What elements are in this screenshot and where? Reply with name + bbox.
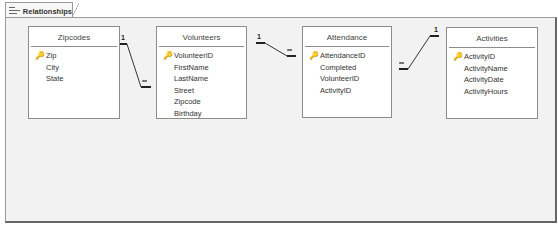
key-icon: 🔑: [453, 52, 463, 61]
key-icon: 🔑: [163, 51, 173, 60]
table-attendance[interactable]: Attendance 🔑AttendanceID Completed Volun…: [302, 26, 392, 118]
key-icon: 🔑: [35, 51, 45, 60]
many-label: ∞: [399, 59, 404, 66]
field-activityid[interactable]: ActivityID: [303, 85, 391, 97]
field-street[interactable]: Street: [157, 85, 246, 97]
field-zipcode[interactable]: Zipcode: [157, 96, 246, 108]
table-title: Activities: [449, 30, 535, 48]
document-tab-strip: Relationships: [0, 0, 558, 18]
field-attendanceid[interactable]: 🔑AttendanceID: [303, 50, 391, 62]
table-volunteers[interactable]: Volunteers 🔑VolunteerID FirstName LastNa…: [156, 26, 247, 119]
one-label: 1: [434, 26, 438, 33]
relationship-activities-attendance: [399, 36, 439, 69]
field-city[interactable]: City: [29, 62, 119, 74]
field-activitydate[interactable]: ActivityDate: [447, 74, 537, 86]
field-birthday[interactable]: Birthday: [157, 108, 246, 120]
many-label: ∞: [142, 77, 147, 84]
relationships-canvas[interactable]: 1 ∞ 1 ∞ 1 ∞ Zipcodes 🔑Zip City State Vol…: [5, 17, 557, 223]
key-icon: 🔑: [309, 51, 319, 60]
field-firstname[interactable]: FirstName: [157, 62, 246, 74]
field-volunteerid[interactable]: VolunteerID: [303, 73, 391, 85]
field-activityname[interactable]: ActivityName: [447, 63, 537, 75]
table-zipcodes[interactable]: Zipcodes 🔑Zip City State: [28, 26, 120, 119]
field-zip[interactable]: 🔑Zip: [29, 50, 119, 62]
field-activityhours[interactable]: ActivityHours: [447, 86, 537, 98]
table-title: Volunteers: [159, 29, 244, 47]
table-activities[interactable]: Activities 🔑ActivityID ActivityName Acti…: [446, 27, 538, 119]
many-label: ∞: [287, 46, 292, 53]
table-title: Zipcodes: [31, 29, 117, 47]
table-title: Attendance: [305, 29, 389, 47]
tab-title: Relationships: [23, 7, 72, 16]
one-label: 1: [257, 33, 261, 40]
one-label: 1: [121, 34, 125, 41]
field-activityid[interactable]: 🔑ActivityID: [447, 51, 537, 63]
relationships-icon: [9, 6, 20, 16]
field-volunteerid[interactable]: 🔑VolunteerID: [157, 50, 246, 62]
field-state[interactable]: State: [29, 73, 119, 85]
field-completed[interactable]: Completed: [303, 62, 391, 74]
field-lastname[interactable]: LastName: [157, 73, 246, 85]
